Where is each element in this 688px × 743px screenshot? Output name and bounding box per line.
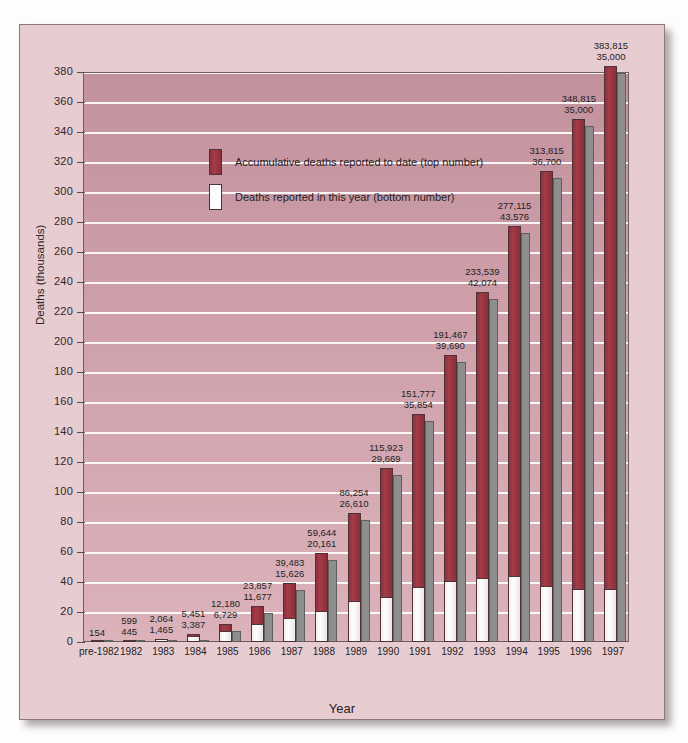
bar-column[interactable] <box>380 468 402 642</box>
bar-3d-shadow <box>168 640 177 642</box>
bar-column[interactable] <box>572 119 594 642</box>
y-axis-tick-label: 360 <box>39 95 73 107</box>
y-axis-tick-label: 120 <box>39 455 73 467</box>
bar-segment-yearly <box>509 576 520 641</box>
bar-segment-accumulative <box>284 584 295 620</box>
bar-column[interactable] <box>187 634 209 642</box>
bar-segment-yearly <box>605 589 616 642</box>
y-axis-tick-label: 380 <box>39 65 73 77</box>
legend-label-accumulative: Accumulative deaths reported to date (to… <box>235 156 483 168</box>
bar-segment-yearly <box>381 597 392 642</box>
bar-segment-yearly <box>445 581 456 641</box>
bar-accumulative[interactable] <box>155 639 168 642</box>
bar-column[interactable] <box>155 639 177 642</box>
legend-swatch-accumulative-icon <box>209 149 222 175</box>
bar-accumulative[interactable] <box>123 640 136 642</box>
y-axis-tick-label: 300 <box>39 185 73 197</box>
x-axis-tick-label: 1990 <box>377 646 399 657</box>
bar-column[interactable] <box>251 606 273 642</box>
bar-segment-yearly <box>188 636 199 641</box>
bar-accumulative[interactable] <box>572 119 585 642</box>
x-axis-tick-label: 1995 <box>538 646 560 657</box>
bar-segment-yearly <box>573 589 584 642</box>
x-axis-tick-label: 1992 <box>441 646 463 657</box>
bar-3d-shadow <box>489 299 498 642</box>
bar-segment-yearly <box>156 639 167 641</box>
x-axis-tick-label: pre-1982 <box>79 646 119 657</box>
bar-column[interactable] <box>412 414 434 642</box>
x-axis-tick-label: 1991 <box>409 646 431 657</box>
bar-column[interactable] <box>219 624 241 642</box>
bar-accumulative[interactable] <box>540 171 553 642</box>
bar-3d-shadow <box>328 560 337 642</box>
bar-value-label: 383,81535,000 <box>594 40 628 62</box>
y-axis-tick-label: 280 <box>39 215 73 227</box>
bar-3d-shadow <box>457 362 466 642</box>
bar-accumulative[interactable] <box>283 583 296 642</box>
bar-3d-shadow <box>425 421 434 642</box>
bar-accumulative[interactable] <box>187 634 200 642</box>
y-axis-tick-label: 180 <box>39 365 73 377</box>
x-axis-tick-label: 1982 <box>120 646 142 657</box>
x-axis-tick-label: 1993 <box>473 646 495 657</box>
x-axis-tick-label: 1994 <box>505 646 527 657</box>
bar-value-accumulative: 383,815 <box>594 40 628 51</box>
bar-3d-shadow <box>585 126 594 642</box>
bar-accumulative[interactable] <box>315 553 328 642</box>
bar-segment-yearly <box>413 587 424 641</box>
y-axis-tick-label: 320 <box>39 155 73 167</box>
bar-column[interactable] <box>444 355 466 642</box>
bar-column[interactable] <box>91 640 113 642</box>
y-axis-tick <box>77 642 85 643</box>
y-axis-tick-label: 200 <box>39 335 73 347</box>
bar-column[interactable] <box>283 583 305 642</box>
x-axis-tick-label: 1988 <box>313 646 335 657</box>
bar-column[interactable] <box>315 553 337 642</box>
chart-card: Deaths (thousands) 020406080100120140160… <box>19 24 665 720</box>
bar-3d-shadow <box>361 520 370 642</box>
bar-segment-yearly <box>252 624 263 642</box>
x-axis-tick-label: 1987 <box>281 646 303 657</box>
bar-accumulative[interactable] <box>412 414 425 642</box>
bar-column[interactable] <box>123 640 145 642</box>
bar-segment-accumulative <box>381 469 392 598</box>
bar-column[interactable] <box>540 171 562 642</box>
x-axis-tick-label: 1984 <box>184 646 206 657</box>
x-axis-tick-label: 1996 <box>570 646 592 657</box>
y-axis-tick-label: 0 <box>39 635 73 647</box>
bar-accumulative[interactable] <box>91 640 104 642</box>
x-axis-tick-label: 1985 <box>216 646 238 657</box>
bar-accumulative[interactable] <box>444 355 457 642</box>
bar-column[interactable] <box>348 513 370 642</box>
y-axis-tick-label: 340 <box>39 125 73 137</box>
legend-item-yearly: Deaths reported in this year (bottom num… <box>209 184 483 210</box>
bar-accumulative[interactable] <box>508 226 521 642</box>
y-axis-tick-label: 160 <box>39 395 73 407</box>
x-axis-tick-label: 1986 <box>249 646 271 657</box>
y-axis-tick-label: 240 <box>39 275 73 287</box>
bar-column[interactable] <box>508 226 530 642</box>
bar-accumulative[interactable] <box>348 513 361 642</box>
legend-item-accumulative: Accumulative deaths reported to date (to… <box>209 149 483 175</box>
bar-accumulative[interactable] <box>219 624 232 642</box>
x-axis-tick-label: 1989 <box>345 646 367 657</box>
bar-column[interactable] <box>476 292 498 642</box>
bar-3d-shadow <box>200 640 209 642</box>
bar-segment-accumulative <box>477 293 488 580</box>
bar-segment-yearly <box>316 611 327 641</box>
x-axis-title: Year <box>20 701 664 716</box>
bar-accumulative[interactable] <box>476 292 489 642</box>
bar-segment-accumulative <box>509 227 520 577</box>
bar-segment-yearly <box>541 586 552 641</box>
bar-segment-accumulative <box>316 554 327 613</box>
bar-value-yearly: 35,000 <box>594 51 628 62</box>
bar-accumulative[interactable] <box>604 66 617 642</box>
bar-segment-accumulative <box>445 356 456 584</box>
bar-accumulative[interactable] <box>251 606 264 642</box>
bar-column[interactable] <box>604 66 626 642</box>
bar-3d-shadow <box>393 475 402 642</box>
bar-segment-yearly <box>284 618 295 641</box>
y-axis-tick-label: 60 <box>39 545 73 557</box>
bar-accumulative[interactable] <box>380 468 393 642</box>
bar-segment-yearly <box>349 601 360 641</box>
